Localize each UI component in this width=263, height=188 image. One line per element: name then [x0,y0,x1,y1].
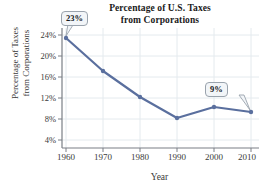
chart-container: Percentage of U.S. Taxes from Corporatio… [0,0,263,188]
callout-tail-2010 [239,95,250,110]
data-point-1970 [101,69,105,73]
annotation-callout-1960: 23% [61,11,88,26]
grid-lines [62,28,259,148]
data-series-line [66,38,251,118]
x-axis-line [62,148,259,152]
data-point-2010 [249,110,253,114]
data-point-1990 [175,116,179,120]
data-point-1960 [64,36,68,40]
callout-tails [66,24,250,110]
data-point-1980 [138,95,142,99]
annotation-callout-2010: 9% [205,82,228,97]
y-axis-line [58,28,62,148]
data-point-2000 [212,105,216,109]
